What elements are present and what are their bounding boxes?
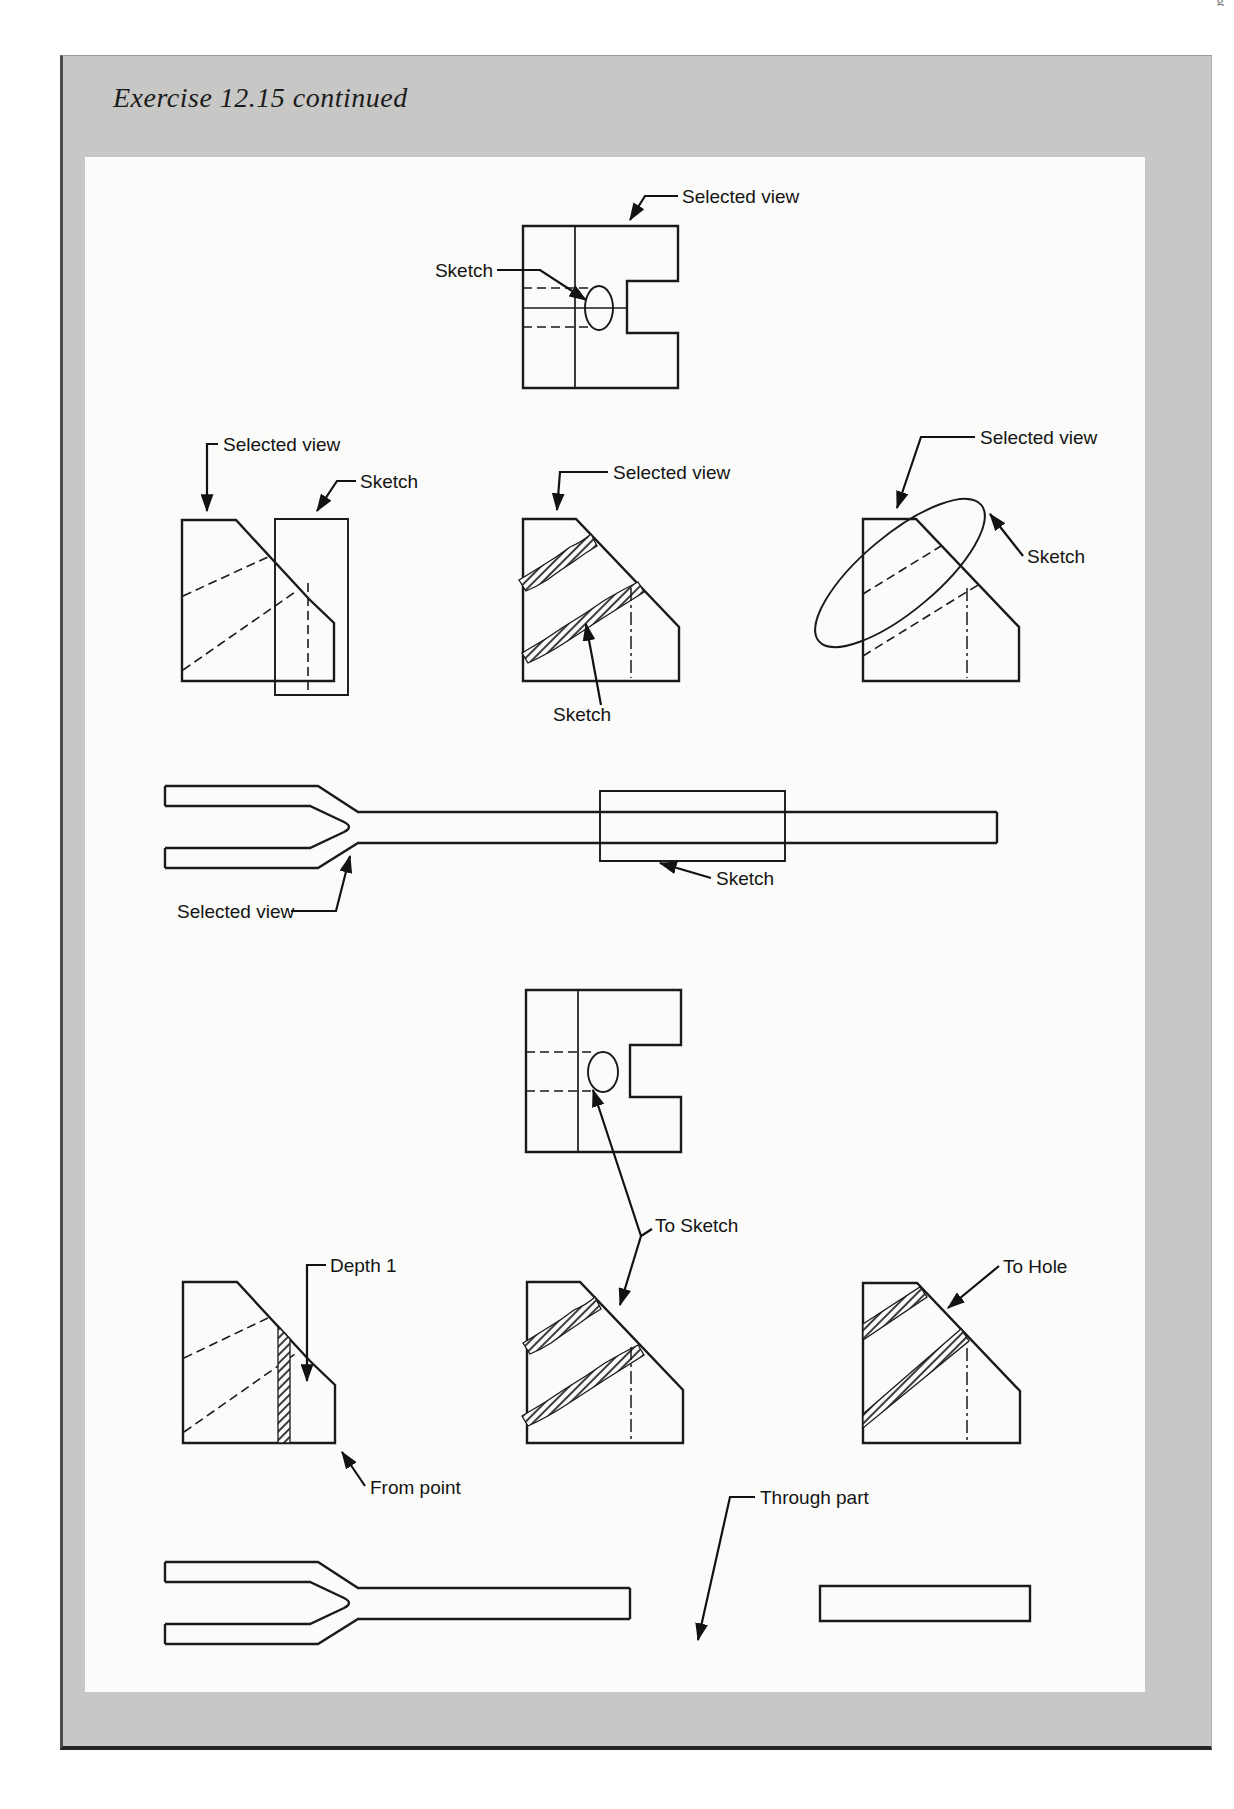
hatched-band <box>863 1329 969 1428</box>
leader-arrow <box>307 1265 326 1381</box>
label-selected-view: Selected view <box>682 186 800 207</box>
diagram-fork-cut: Through part <box>165 1487 1030 1644</box>
label-sketch: Sketch <box>553 704 611 725</box>
diagram-bevel-block-ellipse-sketch: Selected view Sketch <box>794 427 1097 681</box>
label-selected-view: Selected view <box>223 434 341 455</box>
sketch-ellipse <box>588 1052 618 1092</box>
leader-arrow <box>948 1266 999 1308</box>
hidden-line <box>183 556 270 596</box>
hidden-line <box>183 590 298 670</box>
sketch-rectangle <box>600 791 785 861</box>
diagram-bevel-block-spline-sketch: Selected view Sketch <box>519 462 731 725</box>
leader-arrow <box>620 1236 641 1305</box>
leader-arrow <box>593 1090 641 1236</box>
label-sketch: Sketch <box>1027 546 1085 567</box>
part-outline <box>182 520 334 681</box>
fork-outline <box>165 786 997 812</box>
fork-outline <box>165 1562 630 1588</box>
diagram-bevel-block-rect-sketch: Selected view Sketch <box>182 434 418 695</box>
leader-arrow <box>897 437 975 508</box>
spline-band <box>522 582 644 663</box>
diagram-bevel-block-depth: Depth 1 From point <box>183 1255 462 1498</box>
part-outline <box>863 519 1019 681</box>
label-from-point: From point <box>370 1477 462 1498</box>
part-outline <box>523 519 679 681</box>
hatched-band <box>863 1287 927 1340</box>
diagram-fork-part: Selected view Sketch <box>165 786 997 922</box>
label-selected-view: Selected view <box>613 462 731 483</box>
leader-arrow <box>557 472 608 510</box>
leader-arrow <box>630 196 678 220</box>
fork-outline <box>165 1619 630 1644</box>
leader-arrow <box>698 1497 755 1640</box>
hidden-line <box>863 585 978 656</box>
leader-line <box>641 1229 652 1236</box>
hatched-strip <box>278 1326 290 1443</box>
hidden-line <box>184 1317 270 1358</box>
diagram-notched-block-lower: To Sketch <box>526 990 738 1305</box>
sketch-ellipse <box>794 476 1005 670</box>
leader-arrow <box>586 624 601 705</box>
label-depth-1: Depth 1 <box>330 1255 397 1276</box>
label-sketch: Sketch <box>716 868 774 889</box>
diagram-bevel-block-spline-lower <box>522 1282 683 1443</box>
leader-arrow <box>497 270 586 300</box>
leader-arrow <box>317 481 356 511</box>
part-outline <box>523 226 678 388</box>
spline-band <box>519 534 597 591</box>
spline-band <box>522 1345 644 1426</box>
label-through-part: Through part <box>760 1487 870 1508</box>
part-outline <box>526 990 681 1152</box>
diagram-notched-block-top: Selected view Sketch <box>435 186 800 388</box>
cut-piece-rectangle <box>820 1586 1030 1621</box>
fork-outline <box>165 843 997 868</box>
label-selected-view: Selected view <box>980 427 1098 448</box>
hidden-line <box>863 546 941 594</box>
label-sketch: Sketch <box>435 260 493 281</box>
leader-arrow <box>660 863 711 878</box>
label-selected-view: Selected view <box>177 901 295 922</box>
fork-slot <box>165 806 349 848</box>
textbook-page: g Exercise 12.15 continued Selected view… <box>0 0 1234 1809</box>
leader-arrow <box>207 444 218 511</box>
exercise-figure: Selected view Sketch Selected view Sketc… <box>0 0 1234 1809</box>
fork-slot <box>165 1582 349 1624</box>
label-to-hole: To Hole <box>1003 1256 1067 1277</box>
part-outline <box>183 1282 335 1443</box>
label-sketch: Sketch <box>360 471 418 492</box>
leader-arrow <box>990 514 1023 556</box>
leader-arrow <box>291 856 350 911</box>
spline-band <box>523 1297 601 1354</box>
leader-arrow <box>342 1452 365 1486</box>
label-to-sketch: To Sketch <box>655 1215 738 1236</box>
diagram-bevel-block-hole: To Hole <box>863 1256 1067 1443</box>
sketch-rectangle <box>275 519 348 695</box>
